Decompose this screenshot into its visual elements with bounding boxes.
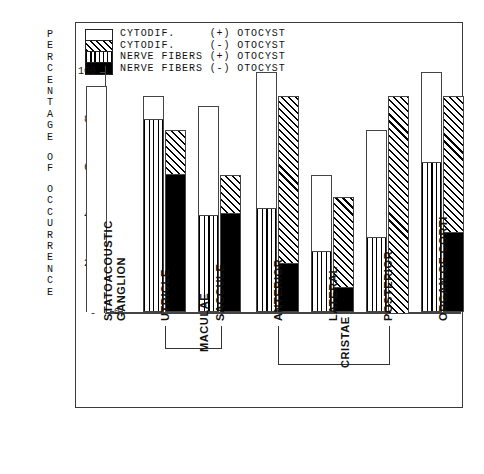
y-tick-mark bbox=[100, 72, 106, 73]
chart-frame: CYTODIF. (+) OTOCYST CYTODIF. (-) OTOCYS… bbox=[75, 22, 463, 408]
category-label: STATOACOUSTIC bbox=[102, 220, 114, 321]
ytitle-char: C bbox=[42, 207, 58, 218]
ytitle-char: F bbox=[42, 163, 58, 174]
bar-segment-cytodif-plus bbox=[422, 73, 441, 164]
ytitle-char: R bbox=[42, 52, 58, 63]
ytitle-char: E bbox=[42, 132, 58, 143]
ytitle-char: C bbox=[42, 195, 58, 206]
ytitle-char: A bbox=[42, 109, 58, 120]
bar-segment-cytodif-minus bbox=[166, 131, 185, 177]
bar-segment-cytodif-plus bbox=[199, 107, 218, 217]
ytitle-char: E bbox=[42, 287, 58, 298]
y-axis-title: P E R C E N T A G E O F O C C U R R E N … bbox=[42, 29, 58, 298]
bar-segment-cytodif-plus bbox=[312, 176, 331, 253]
ytitle-char: N bbox=[42, 86, 58, 97]
ytitle-char: P bbox=[42, 29, 58, 40]
ytitle-char: O bbox=[42, 184, 58, 195]
group-bracket bbox=[278, 326, 390, 365]
y-tick-label: 100 bbox=[70, 67, 96, 77]
ytitle-char: C bbox=[42, 63, 58, 74]
bar-segment-cytodif-plus bbox=[257, 73, 276, 210]
ytitle-char: R bbox=[42, 230, 58, 241]
bar-segment-cytodif-minus bbox=[444, 97, 463, 234]
ytitle-gap bbox=[42, 143, 58, 152]
group-label: CRISTAE bbox=[339, 316, 351, 368]
ytitle-char: E bbox=[42, 75, 58, 86]
ytitle-char: U bbox=[42, 218, 58, 229]
category-label: GANGLION bbox=[115, 257, 127, 321]
category-label: ORGAN OF CORTI bbox=[437, 216, 449, 321]
ytitle-char: N bbox=[42, 264, 58, 275]
category-label: ANTERIOR bbox=[272, 259, 284, 321]
bar-segment-cytodif-plus bbox=[367, 131, 386, 239]
bar-segment-cytodif-plus bbox=[144, 97, 163, 121]
ytitle-char: T bbox=[42, 97, 58, 108]
category-label: POSTERIOR bbox=[382, 251, 394, 321]
ytitle-char: C bbox=[42, 275, 58, 286]
ytitle-char: G bbox=[42, 120, 58, 131]
category-label: LATERAL bbox=[327, 266, 339, 321]
category-label: SACCULE bbox=[214, 264, 226, 321]
ytitle-gap bbox=[42, 175, 58, 184]
plot-area: P E R C E N T A G E O F O C C U R R E N … bbox=[76, 23, 464, 409]
group-bracket bbox=[165, 326, 222, 349]
ytitle-char: O bbox=[42, 152, 58, 163]
category-label: UTRICLE bbox=[159, 269, 171, 321]
group-label: MACULAE bbox=[198, 293, 210, 352]
ytitle-char: E bbox=[42, 40, 58, 51]
ytitle-char: E bbox=[42, 252, 58, 263]
ytitle-char: R bbox=[42, 241, 58, 252]
bar-segment-cytodif-minus bbox=[221, 176, 240, 214]
bar-segment-cytodif-minus bbox=[279, 97, 298, 265]
